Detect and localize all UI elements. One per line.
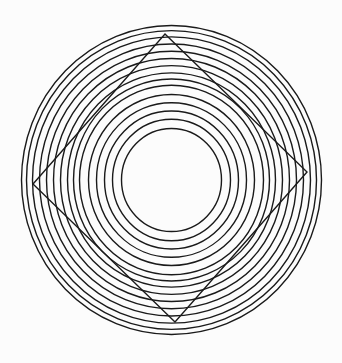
- concentric-circles: [22, 26, 322, 335]
- illusion-figure: [0, 0, 342, 363]
- ring-circle: [22, 26, 322, 335]
- ring-circle: [68, 73, 276, 287]
- ring-circle: [113, 119, 231, 241]
- ring-circle: [89, 95, 255, 266]
- ring-circle: [122, 129, 222, 232]
- ring-circle: [74, 79, 270, 281]
- ring-circle: [97, 103, 247, 258]
- ring-circle: [27, 31, 317, 330]
- ring-circle: [61, 66, 283, 295]
- ring-circle: [47, 51, 297, 309]
- ring-circle: [80, 85, 264, 275]
- ring-circle: [105, 111, 239, 249]
